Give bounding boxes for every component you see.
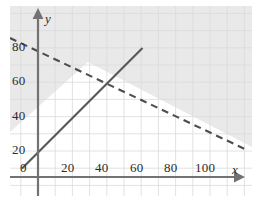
coordinate-plane-svg (0, 0, 257, 210)
x-tick-label-0: 0 (20, 160, 27, 176)
x-tick-label-60: 60 (130, 160, 143, 176)
x-tick-label-100: 100 (195, 160, 215, 176)
y-tick-label-80: 80 (12, 39, 25, 55)
x-axis-label: x (232, 162, 238, 178)
x-tick-label-40: 40 (95, 160, 108, 176)
x-tick-label-20: 20 (61, 160, 74, 176)
y-tick-label-40: 40 (12, 108, 25, 124)
y-tick-label-60: 60 (12, 73, 25, 89)
y-tick-label-20: 20 (12, 142, 25, 158)
x-tick-label-80: 80 (164, 160, 177, 176)
y-axis-label: y (45, 11, 51, 27)
graph-figure: 0 20 40 60 80 100 20 40 60 80 y x (0, 0, 257, 210)
